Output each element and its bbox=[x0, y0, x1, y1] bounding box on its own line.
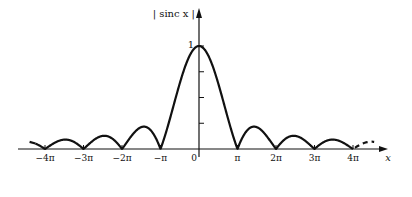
y-axis-label: | sinc x | bbox=[153, 8, 195, 20]
x-tick-label: 2π bbox=[270, 153, 282, 163]
x-tick-label: −π bbox=[154, 153, 168, 163]
y-axis bbox=[196, 8, 202, 157]
sinc-curve bbox=[35, 46, 353, 149]
x-tick-label: −2π bbox=[112, 153, 131, 163]
sinc-curve-continuation-left bbox=[30, 142, 36, 144]
x-tick-label: 0 bbox=[191, 153, 197, 163]
y-axis-arrow-icon bbox=[196, 8, 202, 18]
x-tick-label: 4π bbox=[347, 153, 359, 163]
x-tick-label: −4π bbox=[35, 153, 54, 163]
y-tick-label-1: 1 bbox=[188, 39, 194, 50]
sinc-curve-continuation-right bbox=[355, 142, 374, 148]
x-tick-label: π bbox=[235, 153, 241, 163]
x-axis-label: x bbox=[385, 152, 391, 163]
x-tick-label: 3π bbox=[309, 153, 321, 163]
y-ticks bbox=[199, 46, 204, 123]
x-axis bbox=[18, 146, 388, 152]
sinc-plot: −4π−3π−2π−π0π2π3π4π | sinc x | x 1 bbox=[0, 0, 412, 197]
x-tick-label: −3π bbox=[74, 153, 93, 163]
